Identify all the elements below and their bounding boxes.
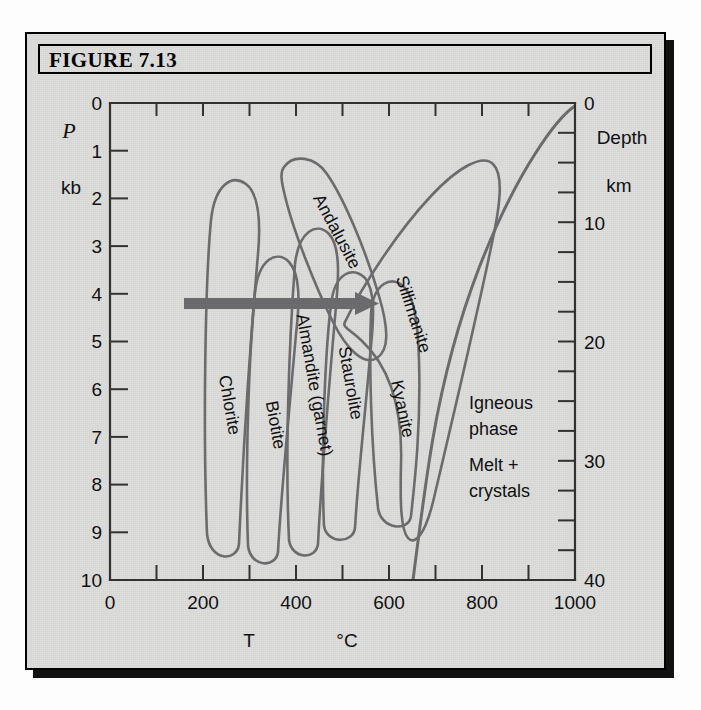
bottom-axis-labels: 0 200 400 600 800 1000: [105, 592, 596, 613]
bottom-axis-ticks: [157, 565, 529, 580]
left-tick-label: 2: [91, 188, 102, 209]
x-axis-unit: °C: [336, 630, 357, 651]
field-label-kyanite: Kyanite: [387, 378, 419, 439]
bottom-tick-label: 200: [187, 592, 219, 613]
right-axis-name: Depth: [597, 127, 648, 148]
phase-diagram-svg: 0 1 2 3 4 5 6 7 8 9 10 P kb 0 10: [27, 34, 668, 672]
bottom-tick-label: 400: [280, 592, 312, 613]
figure-root: FIGURE 7.13: [0, 0, 701, 710]
left-axis-unit: kb: [61, 177, 81, 198]
chlorite-loop: [205, 180, 259, 556]
left-tick-label: 3: [91, 236, 102, 257]
left-axis-ticks: [110, 151, 128, 533]
left-tick-label: 1: [91, 141, 102, 162]
bottom-tick-label: 0: [105, 592, 116, 613]
field-label-sillimanite: Sillimanite: [392, 273, 436, 355]
right-axis-labels: 0 10 20 30 40: [584, 93, 605, 591]
left-tick-label: 7: [91, 427, 102, 448]
field-label-biotite: Biotite: [262, 399, 290, 450]
bottom-tick-label: 800: [466, 592, 498, 613]
right-tick-label: 30: [584, 451, 605, 472]
right-axis-unit: km: [606, 175, 631, 196]
left-tick-label: 4: [91, 284, 102, 305]
bottom-tick-label: 1000: [554, 592, 596, 613]
right-tick-label: 10: [584, 213, 605, 234]
right-tick-label: 20: [584, 332, 605, 353]
melting-curve: [413, 106, 575, 580]
left-tick-label: 0: [91, 93, 102, 114]
axis-frame: [110, 103, 575, 580]
right-tick-label: 0: [584, 93, 595, 114]
right-tick-label: 40: [584, 570, 605, 591]
annotation-crystals: crystals: [469, 481, 530, 501]
right-axis-ticks: [558, 133, 575, 550]
bottom-tick-label: 600: [373, 592, 405, 613]
field-label-staurolite: Staurolite: [335, 345, 368, 421]
x-axis-name: T: [243, 630, 255, 651]
figure-panel: FIGURE 7.13: [25, 32, 666, 670]
left-axis-name: P: [61, 118, 75, 143]
left-tick-label: 9: [91, 522, 102, 543]
left-tick-label: 5: [91, 331, 102, 352]
left-tick-label: 8: [91, 474, 102, 495]
left-tick-label: 10: [81, 570, 102, 591]
annotation-melt: Melt +: [469, 455, 519, 475]
plot-area: 0 1 2 3 4 5 6 7 8 9 10 P kb 0 10: [27, 34, 668, 672]
top-axis-ticks: [157, 103, 529, 116]
left-tick-label: 6: [91, 379, 102, 400]
field-label-chlorite: Chlorite: [215, 374, 245, 437]
left-axis-labels: 0 1 2 3 4 5 6 7 8 9 10: [81, 93, 103, 591]
igneous-phase-annotation: Igneous phase Melt + crystals: [469, 393, 533, 501]
annotation-igneous: Igneous: [469, 393, 533, 413]
annotation-phase: phase: [469, 419, 518, 439]
